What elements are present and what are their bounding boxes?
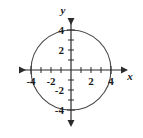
- coordinate-plane-figure: -4 -2 2 4 4 2 -2 -4 x y: [0, 0, 143, 138]
- plot-canvas: -4 -2 2 4 4 2 -2 -4 x y: [0, 0, 143, 138]
- y-tick-label-pos2: 2: [59, 44, 65, 56]
- x-axis-label: x: [126, 70, 133, 82]
- y-axis-label: y: [59, 4, 66, 16]
- y-tick-label-neg2: -2: [55, 84, 65, 96]
- y-tick-label-neg4: -4: [55, 104, 65, 116]
- x-tick-label-neg4: -4: [26, 75, 36, 87]
- y-tick-label-pos4: 4: [59, 24, 65, 36]
- x-tick-label-pos2: 2: [88, 75, 94, 87]
- x-tick-label-pos4: 4: [108, 75, 114, 87]
